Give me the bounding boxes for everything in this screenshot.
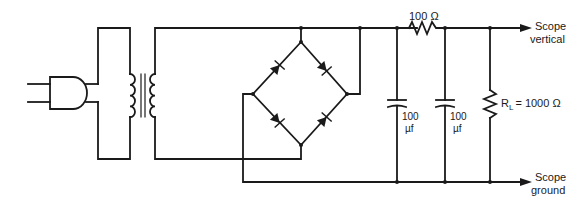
capacitor-1-unit: µf [405, 123, 414, 134]
secondary-coil [150, 74, 155, 117]
capacitor-1: 100 µf [388, 26, 419, 184]
plug-body [50, 77, 87, 109]
junction-dot [299, 40, 303, 44]
scope-ground-label-line1: Scope [535, 171, 566, 183]
junction-dot [443, 180, 447, 184]
series-resistor: 100 Ω [409, 10, 445, 34]
junction-dot [488, 180, 492, 184]
diode-bridge [251, 26, 349, 147]
scope-vertical-label-line1: Scope [535, 20, 566, 32]
resistor-zigzag [484, 90, 496, 118]
capacitor-2: 100 µf [436, 26, 467, 184]
capacitor-2-value: 100 [450, 111, 467, 122]
junction-dot [395, 180, 399, 184]
primary-coil [130, 74, 135, 117]
junction-dot [299, 143, 303, 147]
scope-vertical-label-line2: vertical [530, 33, 565, 45]
resistor-zigzag [409, 22, 445, 34]
junction-dot [488, 26, 492, 30]
junction-dot [443, 26, 447, 30]
secondary-wiring [155, 28, 301, 159]
transformer-primary-wiring [98, 28, 130, 159]
transformer [130, 74, 155, 117]
load-resistor: RL= 1000 Ω [484, 26, 561, 184]
circuit-diagram: 100 Ω 100 µf 100 µf RL= 1000 Ω Scope v [0, 0, 586, 205]
capacitor-1-value: 100 [402, 111, 419, 122]
arrow-right-icon [520, 24, 532, 32]
ac-plug [28, 77, 98, 109]
scope-ground-label-line2: ground [531, 184, 565, 196]
capacitor-2-unit: µf [453, 123, 462, 134]
junction-dot [395, 26, 399, 30]
series-resistor-label: 100 Ω [409, 10, 439, 22]
load-resistor-label: RL= 1000 Ω [501, 97, 561, 112]
